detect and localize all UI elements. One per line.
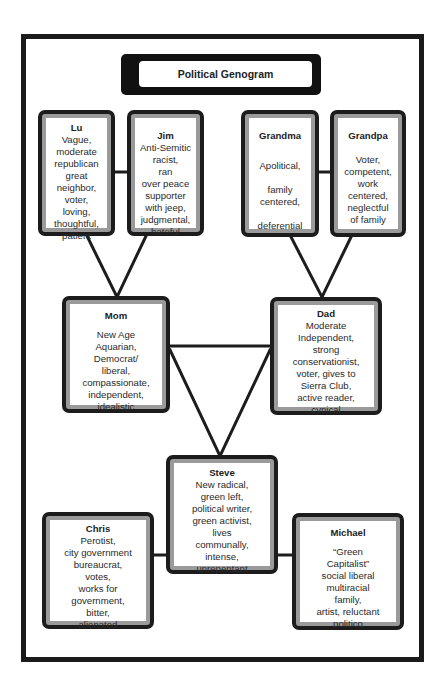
person-box-steve: Steve New radical, green left, political…: [166, 455, 278, 574]
person-description: New radical, green left, political write…: [192, 479, 252, 575]
person-description: Perotist, city government bureaucrat, vo…: [64, 535, 132, 631]
person-description: Anti-Semitic racist, ran over peace supp…: [140, 142, 191, 238]
person-box-grandpa: Grandpa Voter, competent, work centered,…: [330, 110, 406, 237]
person-box-mom: Mom New Age Aquarian, Democrat/ liberal,…: [62, 296, 170, 413]
descent-line-grandpa-dad: [322, 237, 351, 297]
person-description: Voter, competent, work centered, neglect…: [344, 154, 391, 226]
person-description: Moderate Independent, strong conservatio…: [293, 320, 360, 416]
person-box-lu: Lu Vague, moderate republican great neig…: [38, 110, 115, 236]
person-name: Dad: [317, 308, 335, 320]
descent-line-lu-mom: [87, 236, 117, 297]
person-description: “Green Capitalist” social liberal multir…: [317, 546, 380, 630]
person-box-jim: Jim Anti-Semitic racist, ran over peace …: [127, 110, 204, 236]
person-name: Grandpa: [348, 130, 387, 142]
person-box-michael: Michael “Green Capitalist” social libera…: [292, 513, 404, 630]
person-name: Mom: [105, 310, 127, 322]
person-description: New Age Aquarian, Democrat/ liberal, com…: [82, 329, 149, 413]
person-description: Apolitical, family centered, deferential: [258, 160, 303, 232]
person-name: Steve: [209, 467, 235, 479]
person-box-chris: Chris Perotist, city government bureaucr…: [42, 512, 154, 629]
person-name: Lu: [71, 122, 83, 134]
descent-line-dad-steve: [220, 350, 270, 456]
descent-line-mom-steve: [170, 350, 220, 456]
person-name: Michael: [330, 527, 365, 539]
person-name: Grandma: [259, 130, 301, 142]
person-box-grandma: Grandma Apolitical, family centered, def…: [241, 110, 319, 237]
person-box-dad: Dad Moderate Independent, strong conserv…: [270, 297, 382, 415]
person-name: Chris: [86, 523, 111, 535]
person-name: Jim: [157, 130, 174, 142]
descent-line-jim-mom: [117, 236, 146, 297]
person-description: Vague, moderate republican great neighbo…: [54, 134, 99, 242]
descent-line-grandma-dad: [291, 237, 322, 297]
